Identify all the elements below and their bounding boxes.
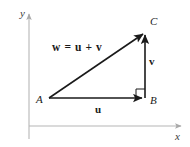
- point-label-a: A: [36, 94, 43, 105]
- y-axis-label: y: [20, 8, 25, 19]
- x-axis-label: x: [175, 131, 180, 142]
- vector-addition-diagram: [0, 0, 190, 147]
- vector-equation-label: w = u + v: [52, 42, 102, 54]
- vector-v-label: v: [149, 56, 155, 67]
- vector-u-label: u: [95, 104, 101, 115]
- point-label-c: C: [150, 16, 157, 27]
- point-label-b: B: [150, 95, 157, 106]
